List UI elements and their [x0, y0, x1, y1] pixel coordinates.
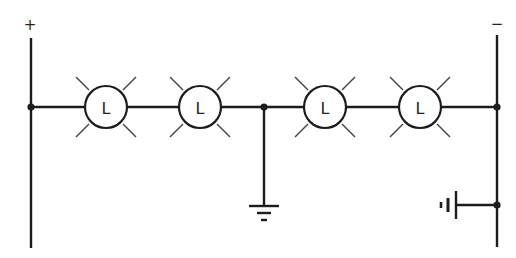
- lamp-1: L: [76, 77, 136, 137]
- battery-ground-icon: [441, 191, 456, 219]
- positive-terminal-label: +: [24, 16, 37, 34]
- negative-terminal-label: −: [491, 15, 504, 33]
- lamp-4: L: [390, 77, 450, 137]
- junction-node-right: [493, 103, 500, 110]
- lamp-2: L: [170, 77, 230, 137]
- circuit-diagram: + − L: [0, 0, 516, 258]
- junction-node-left: [27, 103, 34, 110]
- lamp-label: L: [416, 99, 425, 118]
- lamp-label: L: [321, 99, 330, 118]
- lamp-label: L: [196, 99, 205, 118]
- lamp-3: L: [295, 77, 355, 137]
- ground-icon: [249, 206, 279, 220]
- lamp-label: L: [102, 99, 111, 118]
